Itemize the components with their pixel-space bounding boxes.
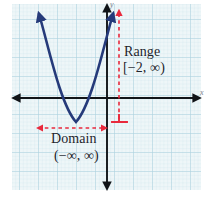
range-label: Range [124,44,160,59]
domain-label: Domain [51,131,97,146]
graph-canvas [0,0,207,204]
range-interval-text: [−2, ∞) [123,60,165,75]
y-axis-label: y [110,0,114,9]
graph-figure: y x Range [−2, ∞) Domain (−∞, ∞) [0,0,207,204]
x-axis-label: x [200,88,204,97]
domain-interval-text: (−∞, ∞) [54,148,99,163]
